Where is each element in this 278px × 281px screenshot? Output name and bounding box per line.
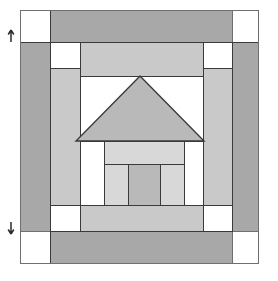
inner-corner-square-top-right — [203, 42, 232, 68]
border-strip-bottom — [50, 231, 232, 263]
border-strip-right — [232, 42, 258, 231]
house-panel-right — [160, 164, 184, 205]
sky-strip-left — [50, 68, 80, 205]
sky-strip-bottom — [80, 205, 203, 231]
inner-corner-square-bottom-left — [50, 205, 80, 231]
corner-square-bottom-left — [20, 231, 50, 263]
border-strip-top — [50, 10, 232, 42]
quilt-block-diagram — [0, 0, 278, 281]
corner-square-top-right — [232, 10, 258, 42]
house-lintel-bar — [104, 141, 184, 164]
quilt-block-figure — [0, 0, 278, 281]
house-door — [128, 164, 160, 205]
corner-square-top-left — [20, 10, 50, 42]
border-strip-left — [20, 42, 50, 231]
house-panel-left — [104, 164, 128, 205]
sky-strip-top — [80, 42, 203, 76]
inner-corner-square-bottom-right — [203, 205, 232, 231]
inner-corner-square-top-left — [50, 42, 80, 68]
corner-square-bottom-right — [232, 231, 258, 263]
sky-strip-right — [203, 68, 232, 205]
